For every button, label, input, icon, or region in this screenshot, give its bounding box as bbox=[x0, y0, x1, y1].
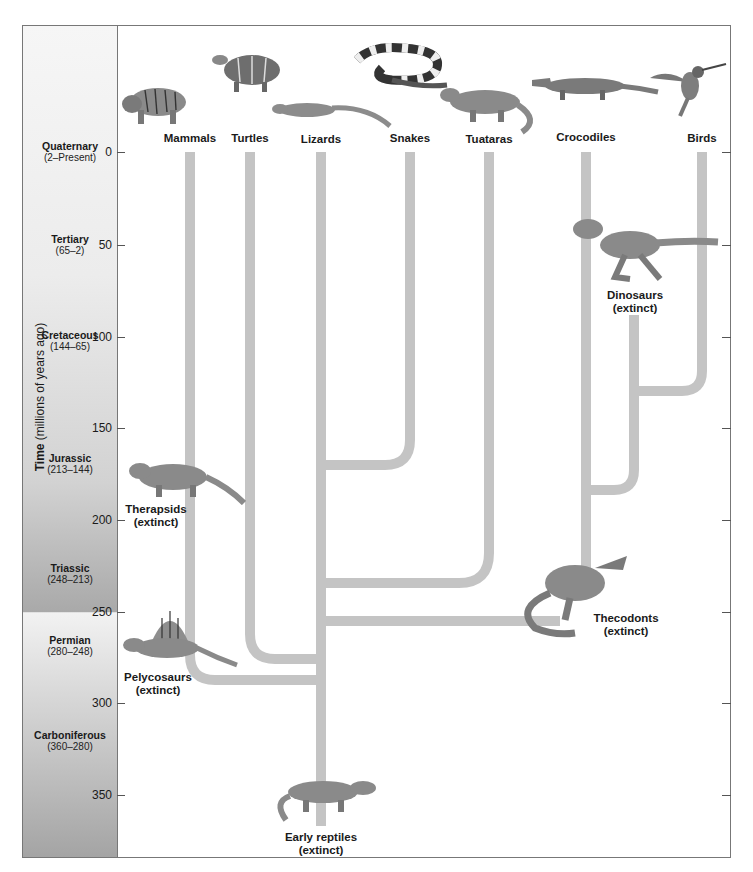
label-snakes: Snakes bbox=[380, 132, 440, 145]
phylogenetic-tree bbox=[0, 0, 753, 872]
label-early-reptiles: Early reptiles(extinct) bbox=[276, 831, 366, 857]
early-reptile-illustration bbox=[268, 772, 378, 822]
mammals-branch bbox=[190, 152, 321, 680]
label-tuataras: Tuataras bbox=[456, 133, 522, 146]
lizard-illustration bbox=[272, 98, 392, 128]
tiger-illustration bbox=[120, 82, 190, 127]
label-turtles: Turtles bbox=[222, 132, 278, 145]
label-therapsids: Therapsids(extinct) bbox=[118, 503, 194, 529]
dinosaurs-branch bbox=[586, 315, 634, 490]
label-birds: Birds bbox=[676, 132, 728, 145]
dinosaur-illustration bbox=[570, 215, 720, 285]
snakes-branch bbox=[321, 152, 410, 465]
label-mammals: Mammals bbox=[160, 132, 220, 145]
turtles-branch bbox=[250, 152, 321, 659]
crocodile-illustration bbox=[530, 70, 660, 105]
snake-illustration bbox=[352, 40, 452, 95]
turtle-illustration bbox=[212, 48, 282, 98]
label-crocodiles: Crocodiles bbox=[550, 131, 622, 144]
label-dinosaurs: Dinosaurs(extinct) bbox=[600, 289, 670, 315]
label-thecodonts: Thecodonts(extinct) bbox=[588, 612, 664, 638]
therapsid-illustration bbox=[128, 455, 246, 505]
pelycosaur-illustration bbox=[122, 603, 240, 673]
label-lizards: Lizards bbox=[292, 133, 350, 146]
label-pelycosaurs: Pelycosaurs(extinct) bbox=[118, 671, 198, 697]
hummingbird-illustration bbox=[648, 60, 728, 118]
